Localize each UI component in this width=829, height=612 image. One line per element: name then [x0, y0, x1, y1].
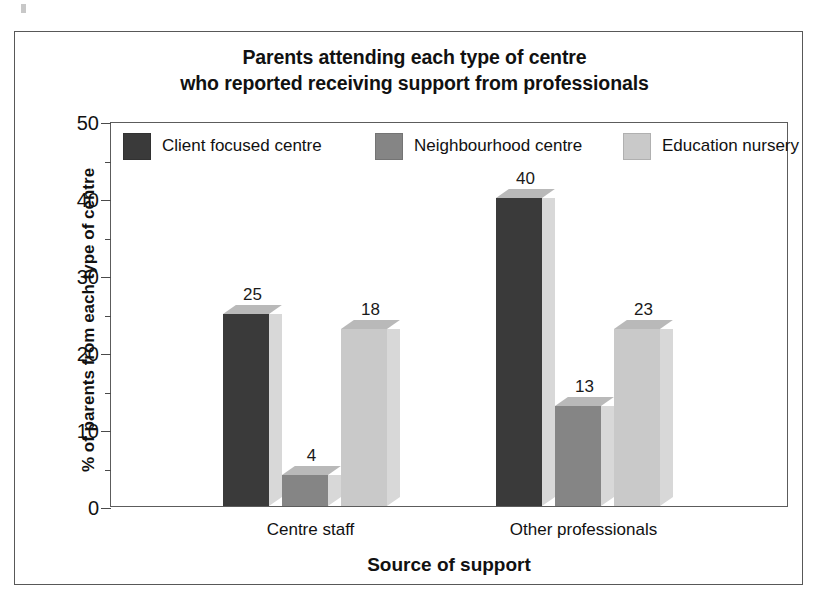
bar: [496, 198, 542, 506]
x-axis-title: Source of support: [110, 554, 788, 576]
legend-entry[interactable]: Client focused centre: [123, 131, 322, 161]
legend-label: Education nursery: [662, 136, 799, 156]
y-tick-major: [101, 277, 111, 278]
y-tick-label: 30: [53, 267, 99, 287]
bar: [341, 329, 387, 506]
chart-title-line2: who reported receiving support from prof…: [0, 72, 829, 95]
bar-top-face: [496, 189, 555, 198]
bar-value-label: 23: [614, 301, 674, 318]
y-tick-label: 50: [53, 113, 99, 133]
bar-side-face: [387, 329, 400, 506]
bar: [223, 314, 269, 507]
bar: [555, 406, 601, 506]
bar-top-face: [282, 466, 341, 475]
y-tick-label: 0: [53, 498, 99, 518]
legend-label: Neighbourhood centre: [414, 136, 582, 156]
bar-value-label: 4: [282, 447, 342, 464]
legend-swatch: [623, 133, 651, 160]
bar-front-face: [496, 198, 542, 506]
plot-area: 01020304050 25418401323: [110, 122, 788, 507]
y-tick-minor: [105, 393, 111, 394]
bar: [282, 475, 328, 506]
bar-top-face: [341, 320, 400, 329]
bar-front-face: [223, 314, 269, 507]
legend: Client focused centreNeighbourhood centr…: [123, 131, 778, 161]
bar-side-face: [328, 475, 341, 506]
legend-label: Client focused centre: [162, 136, 322, 156]
bar-value-label: 25: [223, 286, 283, 303]
legend-entry[interactable]: Education nursery: [623, 131, 799, 161]
y-tick-minor: [105, 470, 111, 471]
y-tick-minor: [105, 162, 111, 163]
bar-top-face: [555, 397, 614, 406]
y-axis-title: % of parents from each type of centre: [79, 110, 99, 530]
y-tick-label: 10: [53, 421, 99, 441]
bar-top-face: [223, 305, 282, 314]
chart-title: Parents attending each type of centre wh…: [0, 46, 829, 95]
chart-title-line1: Parents attending each type of centre: [242, 46, 586, 68]
y-tick-major: [101, 508, 111, 509]
legend-swatch: [375, 133, 403, 160]
scan-artifact-top: [21, 4, 26, 13]
legend-entry[interactable]: Neighbourhood centre: [375, 131, 582, 161]
bar-top-face: [614, 320, 673, 329]
figure-root: Parents attending each type of centre wh…: [0, 0, 829, 612]
bar-front-face: [282, 475, 328, 506]
y-tick-label: 20: [53, 344, 99, 364]
bar-front-face: [555, 406, 601, 506]
x-category-label: Other professionals: [464, 521, 704, 538]
y-tick-minor: [105, 316, 111, 317]
bar-value-label: 40: [496, 170, 556, 187]
bar-side-face: [601, 406, 614, 506]
bar-front-face: [614, 329, 660, 506]
y-tick-major: [101, 354, 111, 355]
bar: [614, 329, 660, 506]
bar-front-face: [341, 329, 387, 506]
bar-side-face: [542, 198, 555, 506]
y-tick-major: [101, 123, 111, 124]
x-category-label: Centre staff: [191, 521, 431, 538]
bar-value-label: 13: [555, 378, 615, 395]
y-tick-major: [101, 431, 111, 432]
bar-side-face: [269, 314, 282, 507]
bar-side-face: [660, 329, 673, 506]
legend-swatch: [123, 133, 151, 160]
bar-value-label: 18: [341, 301, 401, 318]
y-tick-label: 40: [53, 190, 99, 210]
y-tick-minor: [105, 239, 111, 240]
y-tick-major: [101, 200, 111, 201]
